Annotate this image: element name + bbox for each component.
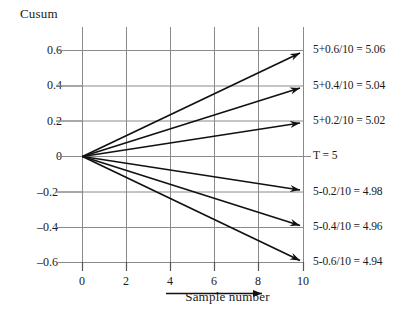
ray-minus-0.2	[83, 157, 301, 191]
horizontal-gridlines	[56, 51, 311, 263]
y-tick-marks	[56, 51, 82, 263]
plot-area	[0, 0, 417, 324]
ray-plus-0.4	[83, 88, 301, 157]
ray-minus-0.4	[83, 157, 301, 226]
x-axis-title: Sample number	[160, 289, 295, 305]
ray-plus-0.2	[83, 123, 301, 157]
cusum-chart-figure: Cusum 0.6 0.4 0.2 0 –0.2 –0.4 –0.6 0 2 4…	[0, 0, 417, 324]
vertical-gridlines	[83, 27, 304, 271]
x-axis-title-wrapper: Sample number	[160, 289, 295, 305]
ray-minus-0.6	[83, 157, 301, 261]
ray-plus-0.6	[83, 53, 301, 157]
x-tick-marks	[83, 262, 304, 271]
